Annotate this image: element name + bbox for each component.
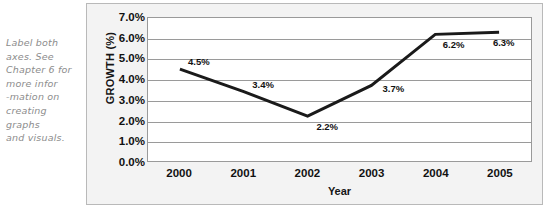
margin-annotation-note: Label both axes. See Chapter 6 for more … xyxy=(6,36,82,145)
x-axis-tick-label: 2000 xyxy=(166,167,192,179)
y-axis-tick-label: 3.0% xyxy=(105,95,145,106)
data-point-label: 4.5% xyxy=(188,57,210,67)
x-axis-tick-label: 2003 xyxy=(359,167,385,179)
y-axis-tick-label: 2.0% xyxy=(105,116,145,127)
annotation-line: graphs xyxy=(6,118,82,132)
y-axis-tick-label: 5.0% xyxy=(105,53,145,64)
y-axis-tick-label: 4.0% xyxy=(105,74,145,85)
annotation-line: Chapter 6 for xyxy=(6,63,82,77)
x-axis-tick-label: 2005 xyxy=(487,167,513,179)
annotation-line: axes. See xyxy=(6,50,82,64)
annotation-line: creating xyxy=(6,104,82,118)
annotation-line: -mation on xyxy=(6,90,82,104)
data-point-labels: 4.5%3.4%2.2%3.7%6.2%6.3% xyxy=(148,18,531,161)
y-axis-tick-label: 7.0% xyxy=(105,12,145,23)
y-axis-tick-label: 6.0% xyxy=(105,33,145,44)
y-axis-tick-label: 0.0% xyxy=(105,157,145,168)
x-axis-tick-labels: 200020012002200320042005 xyxy=(147,167,532,183)
x-axis-tick-label: 2002 xyxy=(295,167,321,179)
data-point-label: 3.4% xyxy=(252,80,274,90)
line-chart: GROWTH (%) 7.0%6.0%5.0%4.0%3.0%2.0%1.0%0… xyxy=(86,3,543,205)
data-point-label: 6.3% xyxy=(493,38,515,48)
x-axis-title: Year xyxy=(147,185,532,197)
annotation-line: and visuals. xyxy=(6,131,82,145)
y-axis-tick-labels: 7.0%6.0%5.0%4.0%3.0%2.0%1.0%0.0% xyxy=(105,17,145,169)
x-axis-tick-label: 2001 xyxy=(230,167,256,179)
data-point-label: 2.2% xyxy=(316,122,338,132)
annotation-line: more infor xyxy=(6,77,82,91)
x-axis-tick-label: 2004 xyxy=(423,167,449,179)
data-point-label: 6.2% xyxy=(443,40,465,50)
y-axis-tick-label: 1.0% xyxy=(105,136,145,147)
annotation-line: Label both xyxy=(6,36,82,50)
data-point-label: 3.7% xyxy=(383,84,405,94)
plot-area: 4.5%3.4%2.2%3.7%6.2%6.3% xyxy=(147,17,532,162)
